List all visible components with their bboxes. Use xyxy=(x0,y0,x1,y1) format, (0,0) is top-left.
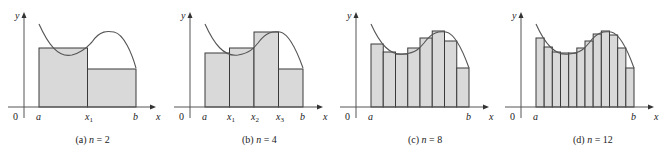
y-axis-arrow-icon xyxy=(519,12,524,18)
riemann-rectangle xyxy=(610,35,618,107)
tick-label-x1: x1 xyxy=(84,111,93,124)
riemann-rectangle xyxy=(383,52,395,107)
riemann-rectangle xyxy=(396,54,408,107)
y-axis-label: y xyxy=(346,10,352,21)
x-axis-arrow-icon xyxy=(483,105,489,110)
y-axis-arrow-icon xyxy=(188,12,193,18)
riemann-rectangle xyxy=(432,31,444,107)
tick-label-a: a xyxy=(533,111,538,122)
riemann-rectangle xyxy=(205,53,230,107)
panel-caption: (b) n = 4 xyxy=(242,134,277,146)
riemann-rectangle xyxy=(371,44,383,107)
y-axis-arrow-icon xyxy=(354,12,359,18)
panel-caption: (d) n = 12 xyxy=(573,134,613,146)
x-axis-arrow-icon xyxy=(150,105,156,110)
tick-label-b: b xyxy=(300,111,305,122)
riemann-rectangle xyxy=(457,68,469,107)
y-axis-label: y xyxy=(511,10,517,21)
x-axis-label: x xyxy=(488,111,494,122)
panel-caption: (c) n = 8 xyxy=(408,134,442,146)
origin-label: 0 xyxy=(13,111,18,122)
x-axis-arrow-icon xyxy=(648,105,654,110)
riemann-rectangle xyxy=(577,48,585,107)
riemann-rectangle xyxy=(593,34,601,107)
y-axis-label: y xyxy=(180,10,186,21)
tick-label-a: a xyxy=(368,111,373,122)
riemann-rectangle xyxy=(445,41,457,107)
tick-label-x3: x3 xyxy=(275,111,284,124)
riemann-rectangle xyxy=(561,53,569,107)
tick-label-x1: x1 xyxy=(226,111,235,124)
tick-label-x2: x2 xyxy=(250,111,259,124)
tick-label-a: a xyxy=(36,111,41,122)
panel-caption: (a) n = 2 xyxy=(76,134,110,146)
riemann-rectangle xyxy=(626,68,634,107)
x-axis-label: x xyxy=(653,111,659,122)
riemann-rectangle xyxy=(552,52,560,107)
y-axis-label: y xyxy=(14,10,20,21)
riemann-rectangle xyxy=(408,48,420,107)
riemann-rectangle xyxy=(536,38,544,107)
origin-label: 0 xyxy=(179,111,184,122)
riemann-rectangle xyxy=(618,48,626,107)
panel-d: yx0ab(d) n = 12 xyxy=(505,10,659,146)
panel-a: yx0ax1b(a) n = 2 xyxy=(8,10,161,146)
origin-label: 0 xyxy=(510,111,515,122)
tick-label-a: a xyxy=(202,111,207,122)
riemann-rectangle xyxy=(230,48,255,107)
riemann-rectangle xyxy=(420,38,432,107)
x-axis-arrow-icon xyxy=(317,105,323,110)
x-axis-label: x xyxy=(155,111,161,122)
tick-label-b: b xyxy=(133,111,138,122)
riemann-rectangle xyxy=(585,41,593,107)
x-axis-label: x xyxy=(322,111,328,122)
riemann-rectangle xyxy=(279,69,304,107)
tick-label-b: b xyxy=(631,111,636,122)
tick-label-b: b xyxy=(466,111,471,122)
origin-label: 0 xyxy=(345,111,350,122)
figure-canvas: yx0ax1b(a) n = 2yx0ax1x2x3b(b) n = 4yx0a… xyxy=(0,0,659,154)
riemann-rectangle xyxy=(39,48,88,107)
y-axis-arrow-icon xyxy=(22,12,27,18)
panel-b: yx0ax1x2x3b(b) n = 4 xyxy=(174,10,328,146)
riemann-rectangle xyxy=(601,31,609,107)
riemann-rectangle xyxy=(569,53,577,107)
riemann-rectangle xyxy=(88,69,137,107)
riemann-sum-figure: yx0ax1b(a) n = 2yx0ax1x2x3b(b) n = 4yx0a… xyxy=(0,0,659,154)
riemann-rectangle xyxy=(544,47,552,107)
panel-c: yx0ab(c) n = 8 xyxy=(340,10,494,146)
